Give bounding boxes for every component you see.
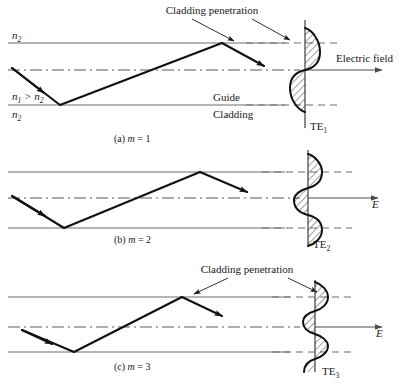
panel-b-ray-arrow-in [12, 196, 45, 216]
panel-b-field-hatch [294, 154, 322, 246]
panel-b-field-axis-label: E [371, 198, 379, 210]
guide-label: Guide [213, 91, 240, 103]
electric-field-label: Electric field [336, 52, 394, 64]
cladding-label: Cladding [213, 108, 254, 120]
panel-c: Cladding penetration E TE3 (c) m = 3 [8, 263, 383, 380]
panel-b: E TE2 (b) m = 2 [8, 150, 379, 253]
cladding-penetration-leader-left [192, 19, 234, 41]
mode-label-te1: TE1 [310, 120, 327, 135]
mode-label-te2: TE2 [313, 238, 330, 253]
panel-b-caption: (b) m = 2 [114, 234, 151, 246]
panel-a: n2 n1 > n2 n2 Guide Cladding Cladding pe… [8, 4, 394, 145]
panel-a-ray-path [12, 43, 222, 105]
panel-c-ray-path [22, 297, 182, 352]
panel-a-n2-bottom-label: n2 [12, 108, 22, 123]
panel-c-field-axis-label: E [375, 327, 383, 339]
mode-label-te3: TE3 [322, 365, 339, 380]
cladding-penetration-label-bottom: Cladding penetration [201, 263, 294, 275]
panel-b-ray-arrow-out [200, 172, 247, 192]
cladding-penetration-leader-right-c [288, 278, 317, 292]
panel-c-ray-arrow-in [22, 330, 52, 344]
panel-a-n2-top-label: n2 [12, 29, 22, 44]
cladding-penetration-label-top: Cladding penetration [166, 4, 259, 16]
panel-b-ray-path [12, 172, 200, 228]
cladding-penetration-leader-left-c [194, 278, 228, 294]
panel-c-caption: (c) m = 3 [114, 361, 150, 373]
cladding-penetration-leader-right [252, 19, 290, 40]
figure-canvas: n2 n1 > n2 n2 Guide Cladding Cladding pe… [0, 0, 404, 386]
panel-a-n1-gt-n2-label: n1 > n2 [12, 90, 44, 105]
panel-a-caption: (a) m = 1 [114, 133, 150, 145]
waveguide-mode-figure: n2 n1 > n2 n2 Guide Cladding Cladding pe… [0, 0, 404, 386]
panel-a-ray-arrow-out [222, 43, 264, 66]
panel-c-ray-arrow-out [182, 297, 222, 316]
